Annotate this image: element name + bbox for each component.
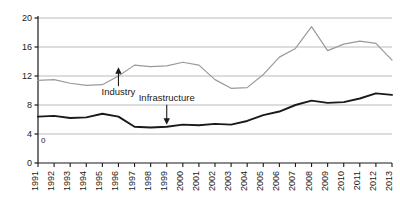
x-tick-label-1996: 1996 [110,171,120,191]
x-tick-label-2008: 2008 [304,171,314,191]
x-tick-label-2005: 2005 [255,171,265,191]
y-tick-label-0: 0 [27,158,32,168]
annotation-label-industry: Industry [102,86,136,97]
x-tick-label-1998: 1998 [143,171,153,191]
annotation-arrow-head-infrastructure [164,118,170,125]
x-tick-label-2004: 2004 [239,171,249,191]
x-tick-label-1991: 1991 [30,171,40,191]
x-tick-label-2009: 2009 [320,171,330,191]
x-tick-label-1992: 1992 [46,171,56,191]
x-tick-label-2000: 2000 [175,171,185,191]
x-tick-label-2013: 2013 [384,171,394,191]
x-tick-label-2007: 2007 [287,171,297,191]
x-tick-label-2011: 2011 [352,171,362,190]
series-lines [38,27,392,128]
x-tick-label-2003: 2003 [223,171,233,191]
x-tick-label-1994: 1994 [78,171,88,191]
annotation-arrow-head-industry [115,67,121,74]
y-axis: 048121620 [22,13,38,168]
x-tick-label-2002: 2002 [207,171,217,191]
y-tick-label-8: 8 [27,100,32,110]
x-tick-label-1995: 1995 [94,171,104,191]
chart-container: 048121620 199119921993199419951996199719… [0,0,400,208]
y-tick-label-20: 20 [22,13,32,23]
annotation-label-infrastructure: Infrastructure [139,92,195,103]
series-line-infrastructure [38,93,392,127]
x-axis: 1991199219931994199519961997199819992000… [30,163,394,191]
line-chart: 048121620 199119921993199419951996199719… [0,0,400,208]
x-tick-label-2010: 2010 [336,171,346,191]
x-tick-label-1997: 1997 [127,171,137,191]
zero-origin-label: 0 [41,136,46,145]
x-tick-label-1999: 1999 [159,171,169,191]
x-tick-label-2006: 2006 [271,171,281,191]
x-tick-label-2012: 2012 [368,171,378,191]
x-tick-label-2001: 2001 [191,171,201,191]
y-tick-label-16: 16 [22,42,32,52]
x-tick-label-1993: 1993 [62,171,72,191]
y-tick-label-4: 4 [27,129,32,139]
y-tick-label-12: 12 [22,71,32,81]
series-line-industry [38,27,392,89]
